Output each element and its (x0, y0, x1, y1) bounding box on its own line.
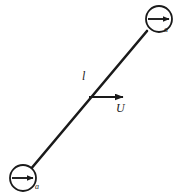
velocity-label: U (116, 102, 125, 114)
top-charge-label: a (164, 26, 168, 34)
connecting-rod (30, 31, 147, 170)
bottom-charge-label: a (35, 183, 39, 191)
figure-canvas: l U a a (0, 0, 179, 194)
rod-length-label: l (82, 70, 85, 82)
diagram-svg (0, 0, 179, 194)
